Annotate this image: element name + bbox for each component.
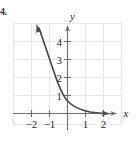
x-tick-label-2: 2 bbox=[101, 118, 107, 130]
y-tick-label-2: 2 bbox=[57, 72, 63, 84]
curve-upper-arrowhead bbox=[36, 24, 42, 34]
x-tick-label-neg1: −1 bbox=[44, 118, 56, 130]
y-axis-label: y bbox=[69, 10, 75, 22]
x-tick-label-neg2: −2 bbox=[26, 118, 38, 130]
y-tick-label-4: 4 bbox=[57, 36, 63, 48]
y-tick-label-3: 3 bbox=[57, 54, 63, 66]
x-tick-label-1: 1 bbox=[83, 118, 89, 130]
y-tick-label-1: 1 bbox=[57, 90, 63, 102]
coordinate-plane-svg: −2 −1 1 2 1 2 3 4 y x bbox=[0, 0, 139, 151]
x-axis-label: x bbox=[123, 107, 129, 119]
